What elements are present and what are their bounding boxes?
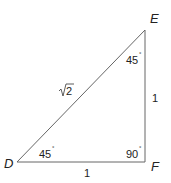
side-df-label: 1 (84, 167, 90, 179)
triangle-diagram: D E F 45 ° 45 ° 90 ° 2 1 1 (0, 0, 171, 183)
angle-e-degree: ° (139, 51, 142, 57)
angle-e-label: 45 (126, 54, 138, 66)
angle-f-degree: ° (139, 145, 142, 151)
triangle-def (17, 30, 145, 162)
angle-d-degree: ° (52, 145, 55, 151)
angle-d-label: 45 (39, 148, 51, 160)
vertex-d-label: D (4, 156, 13, 171)
svg-text:2: 2 (66, 85, 72, 97)
side-de-label: 2 (59, 84, 74, 97)
side-ef-label: 1 (152, 92, 158, 104)
vertex-e-label: E (150, 11, 159, 26)
vertex-f-label: F (151, 159, 160, 174)
angle-f-label: 90 (126, 148, 138, 160)
